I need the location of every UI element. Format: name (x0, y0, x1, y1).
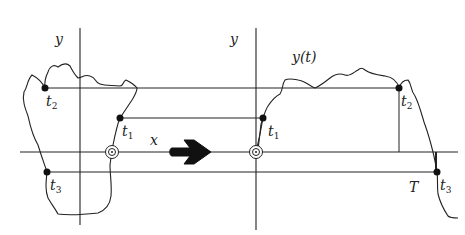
point-t1-right (260, 115, 267, 122)
point-t2-left (42, 85, 49, 92)
right-curve-y-of-t (256, 68, 458, 218)
right-origin-marker-icon (250, 146, 263, 159)
label-t3-left: t3 (50, 177, 62, 195)
x-axis-label: x (150, 132, 158, 148)
left-y-axis-label: y (54, 31, 64, 47)
curve-label: y(t) (291, 49, 316, 65)
diagram-canvas: y y y(t) x T t2 t1 t3 t1 t2 t3 (0, 0, 465, 235)
point-t1-left (117, 115, 124, 122)
label-t3-right: t3 (440, 177, 452, 195)
right-arrow-icon (170, 140, 211, 164)
label-t2-right: t2 (401, 93, 412, 111)
label-t2-left: t2 (46, 93, 57, 111)
label-t1-right: t1 (268, 123, 279, 141)
right-y-axis-label: y (229, 31, 239, 47)
point-t3-right (434, 169, 441, 176)
label-t1-left: t1 (122, 123, 133, 141)
point-t3-left (44, 169, 51, 176)
left-origin-marker-icon (106, 146, 119, 159)
point-t2-right (396, 85, 403, 92)
period-label: T (409, 179, 420, 195)
